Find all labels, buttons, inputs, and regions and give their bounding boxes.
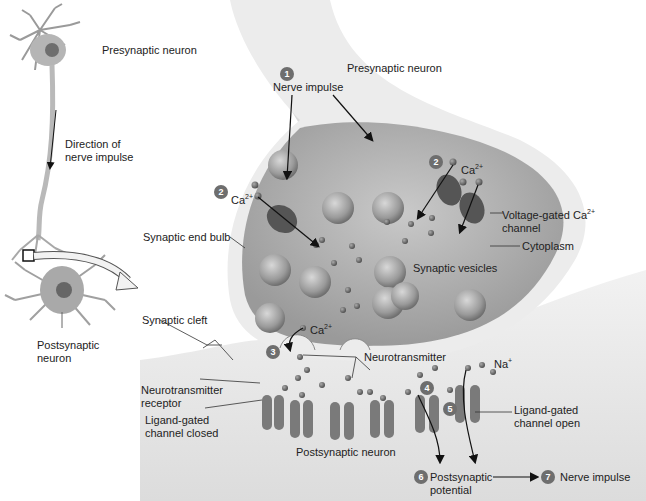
na-ion-label: Na+ bbox=[494, 354, 512, 371]
step-7-label: Nerve impulse bbox=[560, 471, 630, 484]
ca-ion-label-right: Ca2+ bbox=[461, 160, 483, 177]
direction-label: Direction ofnerve impulse bbox=[65, 138, 133, 164]
step-5-badge: 5 bbox=[443, 402, 457, 416]
step-6-badge: 6 bbox=[414, 470, 428, 484]
lg-closed-label: Ligand-gatedchannel closed bbox=[145, 414, 218, 440]
step-1-label: Nerve impulse bbox=[273, 81, 343, 94]
overview-postsynaptic-label: Postsynapticneuron bbox=[37, 339, 99, 365]
step-4-badge: 4 bbox=[420, 381, 434, 395]
postsynaptic-neuron-label: Postsynaptic neuron bbox=[296, 446, 396, 459]
ca-ion-label-left: Ca2+ bbox=[231, 190, 253, 207]
step-1-badge: 1 bbox=[280, 67, 294, 81]
overview-presynaptic-label: Presynaptic neuron bbox=[102, 44, 197, 57]
step-7-badge: 7 bbox=[541, 470, 555, 484]
synaptic-cleft-label: Synaptic cleft bbox=[142, 314, 207, 327]
overview-postsynaptic-neuron bbox=[5, 250, 138, 328]
synaptic-end-bulb-label: Synaptic end bulb bbox=[143, 231, 230, 244]
step-3-badge: 3 bbox=[266, 345, 280, 359]
lg-open-label: Ligand-gatedchannel open bbox=[514, 404, 580, 430]
voltage-gated-channel-label: Voltage-gated Ca2+channel bbox=[502, 205, 595, 235]
synaptic-vesicles-label: Synaptic vesicles bbox=[413, 262, 497, 275]
cytoplasm-label: Cytoplasm bbox=[522, 240, 574, 253]
neurotransmitter-label: Neurotransmitter bbox=[364, 351, 446, 364]
presynaptic-neuron-label: Presynaptic neuron bbox=[347, 62, 442, 75]
step-2-badge-left: 2 bbox=[214, 185, 228, 199]
nt-receptor-label: Neurotransmitterreceptor bbox=[141, 384, 223, 410]
overview-presynaptic-neuron bbox=[10, 4, 80, 260]
ca-ion-label-cleft: Ca2+ bbox=[310, 320, 332, 337]
step-2-badge-right: 2 bbox=[429, 155, 443, 169]
step-6-label: Postsynapticpotential bbox=[430, 471, 492, 497]
